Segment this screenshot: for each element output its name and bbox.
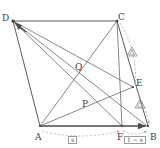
vertex-label-D: D — [2, 14, 9, 23]
vertex-label-A: A — [35, 133, 42, 142]
congruence-tick-CE — [127, 47, 137, 56]
vertex-label-F: F — [117, 133, 123, 142]
vertex-label-B: B — [150, 133, 157, 142]
geometry-figure: D C A B E F P Q s 1 − s — [0, 0, 160, 148]
vertex-dot-A — [39, 125, 41, 127]
vertex-label-Q: Q — [75, 63, 82, 72]
vertex-dot-D — [11, 19, 14, 22]
vertex-label-P: P — [82, 100, 88, 109]
vertex-label-C: C — [118, 13, 125, 22]
segment-label-1-minus-s: 1 − s — [124, 136, 146, 144]
arc-F-to-B — [123, 131, 147, 134]
segment-DA — [13, 21, 40, 126]
segment-DE — [13, 21, 133, 87]
segment-DB — [13, 21, 147, 126]
vertex-dot-B — [147, 125, 149, 127]
vertex-dot-F — [121, 125, 123, 127]
figure-canvas — [0, 0, 160, 148]
vertex-dot-E — [132, 86, 134, 88]
vertex-label-E: E — [136, 79, 143, 88]
segment-label-s: s — [68, 136, 77, 144]
arc-A-to-F — [42, 131, 120, 136]
